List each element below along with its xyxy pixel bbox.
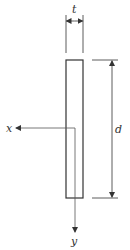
section-diagram: t d x y [0,0,130,250]
depth-label: d [115,123,122,136]
section-rectangle [66,60,83,198]
thickness-label: t [72,3,77,16]
y-axis-label: y [70,235,78,248]
x-axis-label: x [6,122,13,135]
depth-dimension: d [92,60,122,198]
x-axis: x [6,122,75,135]
y-axis: y [70,128,78,248]
thickness-dimension: t [66,3,83,53]
